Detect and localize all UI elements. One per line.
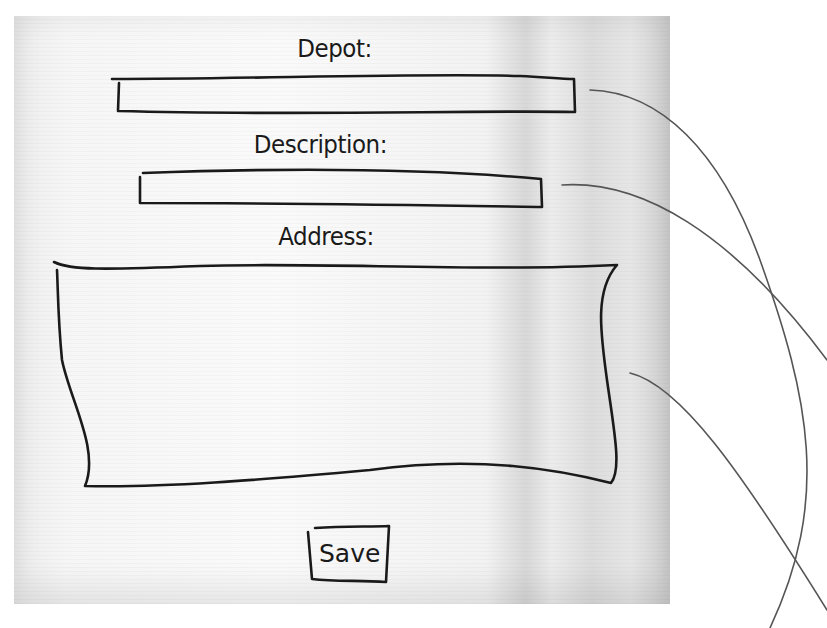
save-button[interactable]: Save	[310, 527, 388, 581]
address-label: Address:	[278, 222, 374, 251]
connector-line-depot	[590, 90, 807, 628]
address-textarea[interactable]	[62, 270, 607, 482]
save-button-label: Save	[319, 539, 380, 568]
connector-line-address	[630, 373, 827, 610]
depot-label: Depot:	[297, 34, 372, 63]
description-input[interactable]	[141, 175, 541, 203]
description-label: Description:	[254, 130, 387, 159]
depot-input[interactable]	[119, 80, 574, 111]
